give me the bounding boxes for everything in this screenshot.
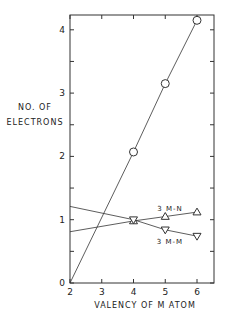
y-axis-label-line2: ELECTRONS <box>4 118 66 127</box>
y-axis-label-line1: NO. OF <box>4 103 66 112</box>
x-axis-label: VALENCY OF M ATOM <box>80 301 210 310</box>
y-tick-label: 2 <box>59 151 65 161</box>
y-tick-label: 1 <box>59 215 65 225</box>
y-tick-label: 3 <box>59 88 65 98</box>
y-tick-label: 0 <box>59 278 65 288</box>
x-tick-label: 4 <box>131 287 137 297</box>
circle-marker <box>130 148 138 156</box>
x-tick-label: 5 <box>162 287 168 297</box>
plot-frame <box>70 15 214 283</box>
chart-canvas: 2345601234 <box>0 0 228 319</box>
x-tick-label: 2 <box>67 287 73 297</box>
annotation-3-m-n: 3 M-N <box>150 205 190 213</box>
x-tick-label: 3 <box>99 287 105 297</box>
x-tick-label: 6 <box>194 287 200 297</box>
circle-marker <box>161 80 169 88</box>
annotation-3-m-m: 3 M-M <box>150 238 190 246</box>
y-tick-label: 4 <box>59 25 65 35</box>
circle-marker <box>193 16 201 24</box>
triangle-down-marker <box>193 233 201 240</box>
triangle-up-marker <box>193 208 201 215</box>
